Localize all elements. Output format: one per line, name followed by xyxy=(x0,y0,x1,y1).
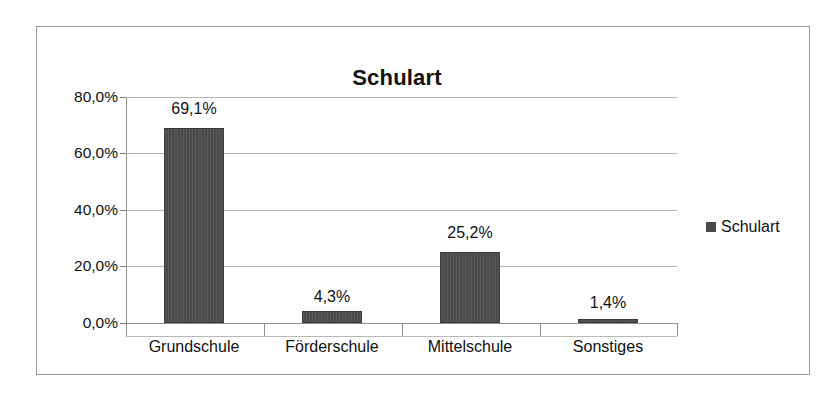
category-tick xyxy=(402,323,403,336)
y-axis-tick-label: 60,0% xyxy=(46,144,118,162)
category-tick xyxy=(126,323,127,336)
page-title: Schulart xyxy=(97,65,697,91)
legend-square-marker-icon xyxy=(706,222,716,232)
bar-value-label: 4,3% xyxy=(272,288,392,306)
legend-item-label: Schulart xyxy=(721,218,780,236)
bar-value-label: 1,4% xyxy=(548,294,668,312)
y-axis-tick-label: 40,0% xyxy=(46,201,118,219)
x-axis-category-label: Mittelschule xyxy=(401,338,539,356)
chart-title-container: Schulart xyxy=(97,45,697,79)
y-axis-tick-label: 0,0% xyxy=(46,314,118,332)
x-axis-category-label: Sonstiges xyxy=(539,338,677,356)
y-axis-labels: 80,0% 60,0% 40,0% 20,0% 0,0% xyxy=(40,0,118,394)
x-axis-category-label: Grundschule xyxy=(125,338,263,356)
bar-sonstiges[interactable] xyxy=(578,319,638,323)
bar-value-label: 69,1% xyxy=(134,100,254,118)
gridline xyxy=(126,97,677,98)
plot-area xyxy=(126,97,677,323)
chart-legend: Schulart xyxy=(706,218,780,236)
category-tick xyxy=(677,323,678,336)
bar-value-label: 25,2% xyxy=(410,224,530,242)
category-tick xyxy=(540,323,541,336)
bar-grundschule[interactable] xyxy=(164,128,224,323)
x-axis-category-label: Förderschule xyxy=(263,338,401,356)
category-tick xyxy=(264,323,265,336)
bar-foerderschule[interactable] xyxy=(302,311,362,323)
category-axis-line xyxy=(126,336,677,337)
y-axis-tick-label: 20,0% xyxy=(46,257,118,275)
bar-mittelschule[interactable] xyxy=(440,252,500,323)
y-axis-tick-label: 80,0% xyxy=(46,88,118,106)
